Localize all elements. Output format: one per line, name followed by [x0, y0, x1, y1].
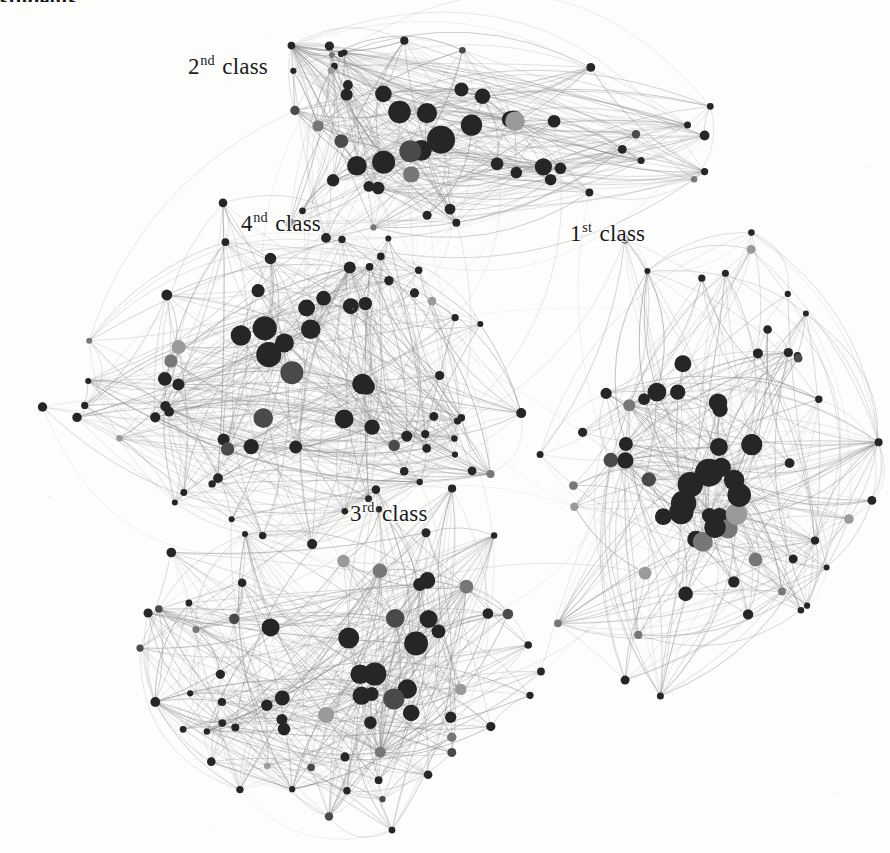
graph-node[interactable] [372, 485, 381, 494]
graph-node[interactable] [570, 503, 578, 511]
graph-node[interactable] [639, 567, 652, 580]
graph-node[interactable] [430, 412, 439, 421]
graph-node[interactable] [389, 440, 400, 451]
graph-node[interactable] [229, 614, 239, 624]
graph-node[interactable] [290, 68, 296, 74]
graph-node[interactable] [554, 619, 562, 627]
graph-node[interactable] [747, 245, 756, 254]
graph-node[interactable] [375, 747, 386, 758]
graph-node[interactable] [537, 668, 545, 676]
graph-node[interactable] [427, 126, 455, 154]
graph-node[interactable] [187, 690, 193, 696]
graph-node[interactable] [338, 236, 345, 243]
graph-node[interactable] [207, 757, 216, 766]
graph-node[interactable] [707, 103, 714, 110]
graph-node[interactable] [164, 354, 177, 367]
graph-node[interactable] [180, 489, 187, 496]
graph-node[interactable] [537, 451, 544, 458]
graph-node[interactable] [307, 539, 317, 549]
graph-node[interactable] [399, 140, 421, 162]
graph-node[interactable] [642, 472, 656, 486]
graph-node[interactable] [804, 603, 810, 609]
graph-node[interactable] [278, 723, 291, 736]
graph-node[interactable] [417, 479, 423, 485]
graph-node[interactable] [400, 37, 408, 45]
graph-node[interactable] [218, 698, 226, 706]
graph-node[interactable] [338, 628, 359, 649]
graph-node[interactable] [423, 211, 432, 220]
graph-node[interactable] [420, 610, 438, 628]
graph-node[interactable] [454, 83, 468, 97]
graph-node[interactable] [341, 89, 353, 101]
graph-node[interactable] [172, 340, 186, 354]
graph-node[interactable] [445, 712, 456, 723]
graph-node[interactable] [375, 86, 392, 103]
graph-node[interactable] [535, 158, 552, 175]
graph-node[interactable] [264, 763, 271, 770]
graph-node[interactable] [289, 786, 295, 792]
graph-node[interactable] [749, 553, 763, 567]
graph-node[interactable] [586, 63, 595, 72]
graph-node[interactable] [815, 396, 822, 403]
graph-node[interactable] [763, 325, 772, 334]
graph-node[interactable] [150, 697, 160, 707]
graph-node[interactable] [253, 408, 273, 428]
graph-node[interactable] [403, 705, 420, 722]
graph-node[interactable] [604, 453, 619, 468]
graph-node[interactable] [329, 52, 335, 58]
graph-node[interactable] [803, 311, 809, 317]
graph-node[interactable] [555, 163, 567, 175]
graph-node[interactable] [452, 314, 459, 321]
graph-node[interactable] [144, 608, 153, 617]
graph-node[interactable] [722, 270, 729, 277]
graph-node[interactable] [511, 167, 523, 179]
graph-node[interactable] [619, 437, 633, 451]
graph-node[interactable] [172, 379, 184, 391]
graph-node[interactable] [167, 548, 177, 558]
graph-node[interactable] [868, 496, 877, 505]
graph-node[interactable] [455, 684, 466, 695]
graph-node[interactable] [634, 631, 642, 639]
graph-node[interactable] [468, 466, 477, 475]
graph-node[interactable] [150, 412, 160, 422]
graph-node[interactable] [452, 452, 458, 458]
graph-node[interactable] [784, 348, 793, 357]
graph-node[interactable] [86, 338, 92, 344]
graph-node[interactable] [242, 531, 248, 537]
graph-node[interactable] [704, 517, 725, 538]
graph-node[interactable] [342, 508, 349, 515]
graph-node[interactable] [383, 688, 404, 709]
graph-node[interactable] [632, 130, 640, 138]
graph-node[interactable] [338, 51, 344, 57]
graph-node[interactable] [458, 414, 465, 421]
graph-node[interactable] [388, 101, 411, 124]
graph-node[interactable] [307, 764, 315, 772]
graph-node[interactable] [252, 284, 265, 297]
graph-node[interactable] [748, 229, 755, 236]
graph-node[interactable] [824, 565, 830, 571]
graph-node[interactable] [415, 267, 422, 274]
graph-node[interactable] [516, 408, 526, 418]
graph-node[interactable] [160, 401, 170, 411]
graph-node[interactable] [432, 624, 446, 638]
graph-node[interactable] [85, 378, 91, 384]
graph-node[interactable] [477, 321, 483, 327]
graph-node[interactable] [265, 253, 277, 265]
graph-node[interactable] [648, 383, 667, 402]
graph-node[interactable] [301, 319, 321, 339]
graph-node[interactable] [219, 719, 227, 727]
graph-node[interactable] [298, 300, 315, 317]
graph-node[interactable] [701, 168, 708, 175]
graph-node[interactable] [389, 827, 396, 834]
graph-node[interactable] [370, 224, 376, 230]
graph-node[interactable] [280, 361, 303, 384]
graph-node[interactable] [460, 580, 474, 594]
graph-node[interactable] [364, 716, 377, 729]
graph-node[interactable] [328, 67, 335, 74]
graph-node[interactable] [353, 687, 371, 705]
graph-node[interactable] [700, 131, 710, 141]
graph-node[interactable] [875, 438, 883, 446]
graph-node[interactable] [710, 438, 728, 456]
graph-node[interactable] [785, 291, 791, 297]
graph-node[interactable] [698, 275, 705, 282]
